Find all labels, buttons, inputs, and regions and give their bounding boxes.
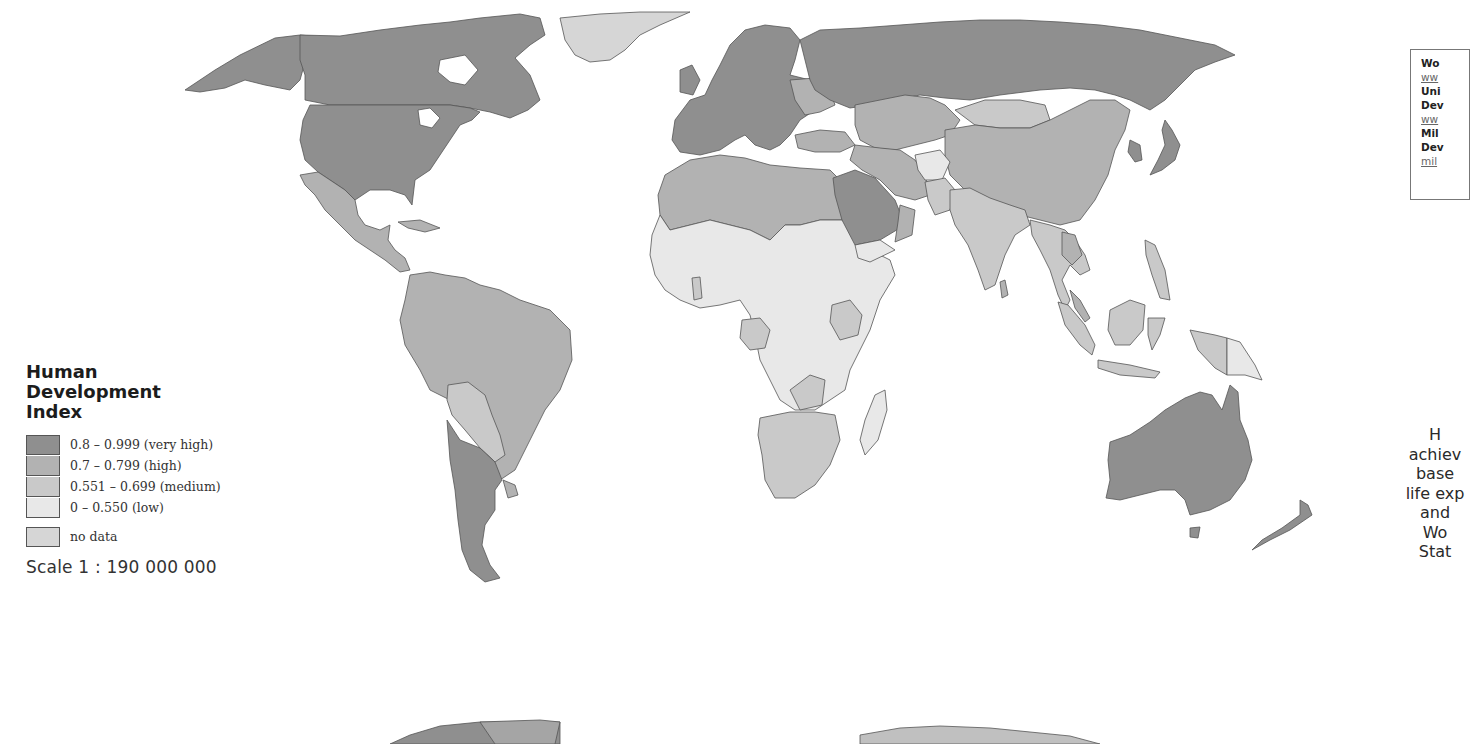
- legend-item-no-data: no data: [26, 526, 266, 547]
- legend-item-high: 0.7 – 0.799 (high): [26, 455, 266, 476]
- legend-label: 0.8 – 0.999 (very high): [70, 437, 213, 452]
- region-russia: [800, 20, 1235, 110]
- caption-line: life exp: [1360, 484, 1474, 504]
- source-link[interactable]: ww: [1421, 70, 1469, 84]
- region-canada: [300, 14, 545, 118]
- caption-line: base: [1360, 464, 1474, 484]
- swatch-medium: [26, 477, 60, 497]
- legend-title-line: Human: [26, 362, 266, 382]
- source-title: Mil: [1421, 126, 1469, 140]
- region-philippines: [1145, 240, 1170, 300]
- region-sulawesi: [1148, 318, 1165, 350]
- legend-label: 0.551 – 0.699 (medium): [70, 479, 221, 494]
- swatch-low: [26, 498, 60, 518]
- legend-classes: 0.8 – 0.999 (very high) 0.7 – 0.799 (hig…: [26, 434, 266, 518]
- region-papua-new-guinea: [1227, 338, 1262, 380]
- swatch-high: [26, 456, 60, 476]
- caption-line: and: [1360, 503, 1474, 523]
- region-new-zealand: [1252, 500, 1312, 550]
- region-greenland: [560, 12, 690, 62]
- region-central-asia: [855, 95, 960, 150]
- source-link[interactable]: ww: [1421, 112, 1469, 126]
- source-link[interactable]: mil: [1421, 154, 1469, 168]
- map-scale: Scale 1 : 190 000 000: [26, 557, 266, 577]
- region-japan: [1150, 120, 1180, 175]
- source-title: Wo: [1421, 56, 1469, 70]
- region-bottom-russia: [860, 726, 1100, 744]
- legend-title-line: Index: [26, 402, 266, 422]
- map-caption: H achiev base life exp and Wo Stat: [1360, 425, 1474, 562]
- legend-item-low: 0 – 0.550 (low): [26, 497, 266, 518]
- caption-line: Wo: [1360, 523, 1474, 543]
- region-borneo: [1108, 300, 1145, 345]
- legend-label: 0 – 0.550 (low): [70, 500, 164, 515]
- caption-line: Stat: [1360, 542, 1474, 562]
- source-title: Dev: [1421, 98, 1469, 112]
- swatch-no-data: [26, 527, 60, 547]
- region-sri-lanka: [1000, 280, 1008, 298]
- region-cuba: [398, 220, 440, 232]
- region-southern-africa: [758, 412, 840, 498]
- region-papua-indonesia: [1190, 330, 1227, 375]
- region-ghana: [692, 277, 702, 300]
- source-title: Dev: [1421, 140, 1469, 154]
- sources-box: Wo ww Uni Dev ww Mil Dev mil: [1410, 49, 1470, 200]
- caption-line: H: [1360, 425, 1474, 445]
- region-mongolia: [955, 100, 1050, 128]
- region-uruguay: [503, 480, 518, 498]
- region-tasmania: [1190, 527, 1200, 538]
- legend-title: Human Development Index: [26, 362, 266, 422]
- region-australia: [1106, 385, 1252, 515]
- legend-title-line: Development: [26, 382, 266, 402]
- source-title: Uni: [1421, 84, 1469, 98]
- legend-label: no data: [70, 529, 117, 544]
- swatch-very-high: [26, 435, 60, 455]
- legend-item-very-high: 0.8 – 0.999 (very high): [26, 434, 266, 455]
- legend-item-medium: 0.551 – 0.699 (medium): [26, 476, 266, 497]
- caption-line: achiev: [1360, 445, 1474, 465]
- legend-label: 0.7 – 0.799 (high): [70, 458, 182, 473]
- region-uk: [680, 65, 700, 95]
- region-southeast-asia: [1030, 220, 1090, 310]
- region-turkey: [795, 130, 855, 152]
- region-java: [1098, 360, 1160, 378]
- region-korea: [1128, 140, 1142, 162]
- region-madagascar: [860, 390, 887, 455]
- legend: Human Development Index 0.8 – 0.999 (ver…: [26, 362, 266, 577]
